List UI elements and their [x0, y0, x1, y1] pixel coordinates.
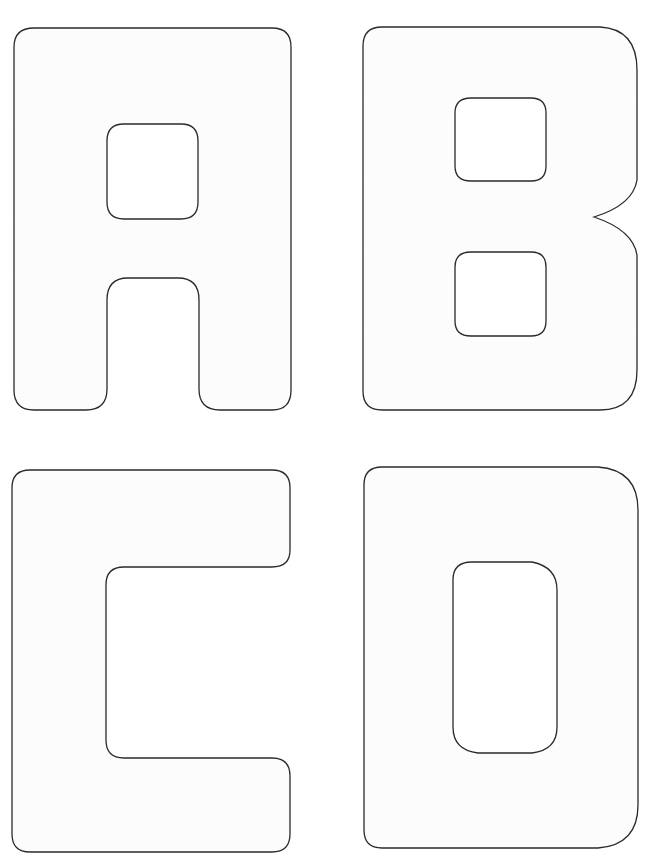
letter-sheet: A B C D [0, 0, 655, 857]
letter-c-outline: C [12, 470, 290, 852]
letter-b-outline: B [363, 27, 637, 410]
letter-a-outline: A [14, 28, 291, 410]
letter-d-outline: D [364, 467, 638, 848]
